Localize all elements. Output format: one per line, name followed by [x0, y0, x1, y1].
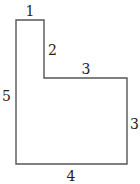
edge-label-bottom: 4: [67, 168, 76, 184]
edge-label-right: 3: [130, 116, 139, 132]
edge-label-step-horizontal: 3: [82, 61, 91, 77]
edge-label-left: 5: [2, 88, 11, 104]
edge-label-top: 1: [26, 3, 35, 19]
l-shape-outline: [16, 20, 127, 164]
edge-label-inner-vertical: 2: [48, 42, 57, 58]
l-shape-diagram: 1 2 3 3 4 5: [0, 0, 140, 184]
